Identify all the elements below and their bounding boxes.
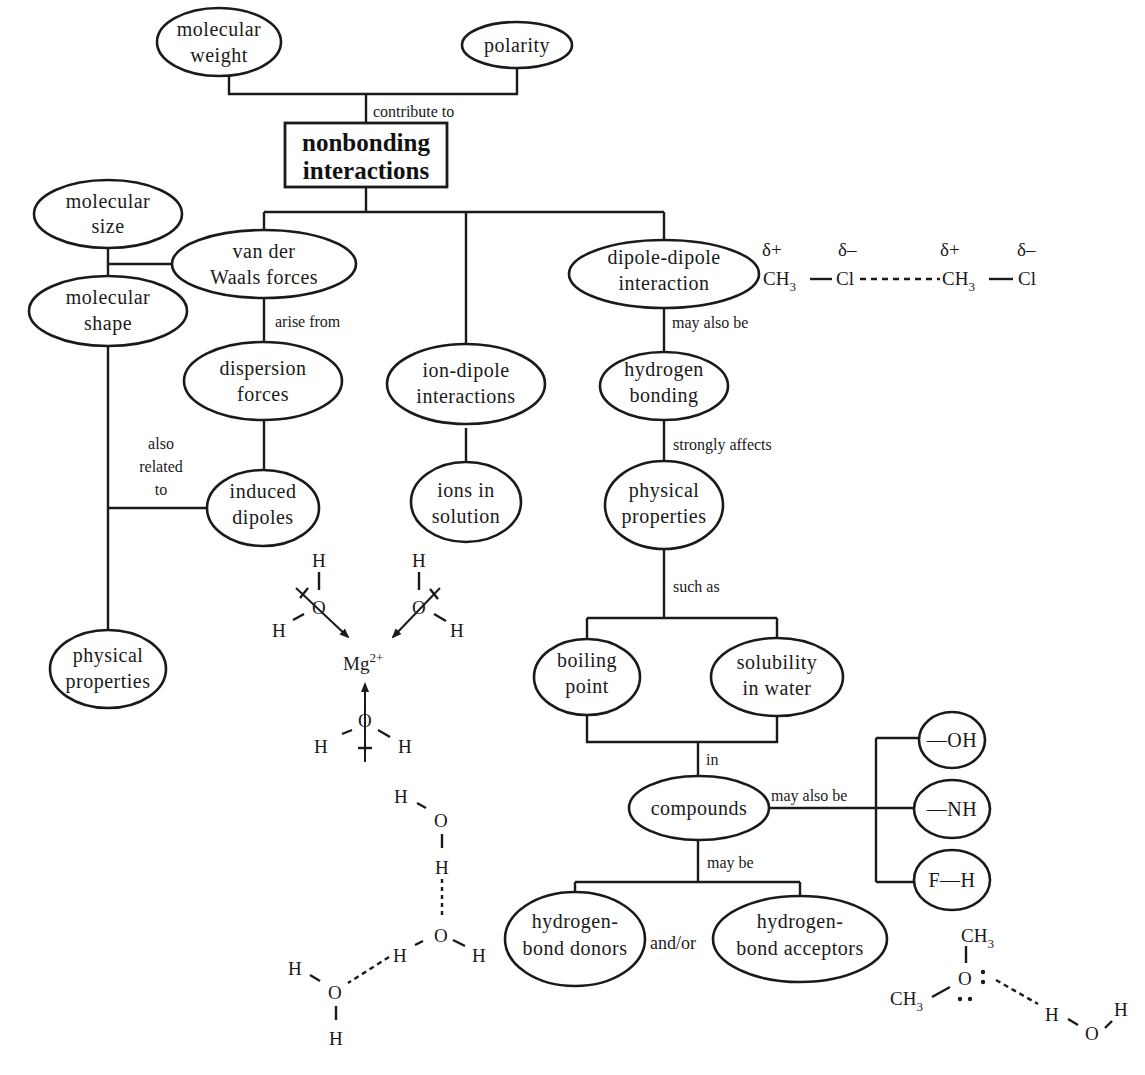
svg-text:O: O (434, 810, 448, 831)
svg-text:point: point (565, 675, 609, 698)
node-polarity: polarity (462, 22, 572, 68)
svg-text:δ+: δ+ (762, 239, 782, 260)
svg-text:Cl: Cl (836, 268, 854, 289)
label-related: related (139, 458, 183, 475)
svg-text:hydrogen: hydrogen (624, 358, 704, 381)
svg-text:molecular: molecular (66, 190, 150, 212)
svg-text:dispersion: dispersion (219, 357, 306, 380)
svg-text:interactions: interactions (416, 385, 515, 407)
svg-text:O: O (358, 710, 372, 731)
svg-text:physical: physical (73, 644, 144, 667)
svg-text:properties: properties (66, 670, 151, 693)
svg-text:O: O (958, 968, 972, 989)
label-may-also-be-1: may also be (672, 314, 748, 332)
svg-text:H: H (394, 786, 408, 807)
node-physical-properties-right: physical properties (605, 461, 723, 549)
svg-text:O: O (1085, 1023, 1099, 1044)
node-oh-group: —OH (919, 712, 985, 768)
ether-water-hydrogen-bond: CH3 O CH3 H O H (890, 925, 1128, 1044)
svg-text:boiling: boiling (557, 649, 617, 672)
node-dispersion-forces: dispersion forces (184, 342, 342, 420)
svg-text:interaction: interaction (618, 272, 709, 294)
svg-text:δ–: δ– (1017, 239, 1036, 260)
node-hydrogen-bonding: hydrogen bonding (600, 352, 728, 420)
node-ion-dipole-interactions: ion-dipole interactions (387, 344, 545, 424)
node-physical-properties-left: physical properties (50, 630, 166, 708)
node-molecular-weight: molecular weight (157, 8, 281, 76)
svg-text:H: H (288, 958, 302, 979)
svg-text:—NH: —NH (926, 798, 977, 820)
svg-text:H: H (450, 620, 464, 641)
svg-text:physical: physical (629, 479, 700, 502)
svg-text:size: size (91, 215, 124, 237)
svg-text:properties: properties (622, 505, 707, 528)
svg-text:forces: forces (237, 383, 289, 405)
label-in: in (706, 751, 718, 768)
svg-text:H: H (312, 550, 326, 571)
svg-text:O: O (328, 982, 342, 1003)
svg-text:molecular: molecular (66, 286, 150, 308)
node-compounds: compounds (629, 776, 769, 840)
svg-text:δ+: δ+ (940, 239, 960, 260)
node-molecular-shape: molecular shape (29, 276, 187, 346)
svg-text:hydrogen-: hydrogen- (757, 910, 844, 933)
label-and-or: and/or (650, 933, 696, 953)
node-solubility-in-water: solubility in water (711, 638, 843, 716)
label-contribute-to: contribute to (373, 103, 454, 120)
label-to: to (155, 481, 167, 498)
dipole-dipole-example: δ+ δ– δ+ δ– CH3 Cl CH3 Cl (762, 239, 1036, 294)
svg-text:H: H (398, 736, 412, 757)
svg-text:polarity: polarity (484, 34, 550, 57)
svg-text:H: H (393, 945, 407, 966)
svg-text:in water: in water (743, 677, 812, 699)
svg-text:H: H (472, 945, 486, 966)
node-fh-group: F—H (914, 850, 990, 910)
svg-text:ion-dipole: ion-dipole (422, 359, 509, 382)
svg-text:H: H (412, 550, 426, 571)
title-line2: interactions (303, 157, 430, 184)
svg-text:van der: van der (233, 240, 296, 262)
svg-text:shape: shape (84, 312, 132, 335)
node-dipole-dipole-interaction: dipole-dipole interaction (569, 240, 759, 308)
node-ions-in-solution: ions in solution (411, 462, 521, 542)
svg-text:weight: weight (190, 44, 247, 67)
svg-text:H: H (435, 857, 449, 878)
svg-text:δ–: δ– (838, 239, 857, 260)
svg-text:H: H (314, 736, 328, 757)
svg-text:dipoles: dipoles (232, 506, 293, 529)
svg-text:molecular: molecular (177, 18, 261, 40)
svg-text:H: H (329, 1028, 343, 1049)
svg-text:induced: induced (230, 480, 297, 502)
svg-text:H: H (272, 620, 286, 641)
svg-text:CH3: CH3 (942, 268, 975, 294)
svg-text:ions in: ions in (437, 479, 494, 501)
label-strongly-affects: strongly affects (673, 436, 772, 454)
svg-text:hydrogen-: hydrogen- (532, 910, 619, 933)
title-box-nonbonding-interactions: nonbonding interactions (285, 123, 447, 187)
svg-text:CH3: CH3 (890, 988, 923, 1014)
svg-text:H: H (1045, 1004, 1059, 1025)
svg-text:solubility: solubility (737, 651, 818, 674)
label-may-also-be-2: may also be (771, 787, 847, 805)
svg-text:F—H: F—H (928, 869, 975, 891)
svg-text:O: O (434, 925, 448, 946)
label-may-be: may be (707, 854, 754, 872)
node-hydrogen-bond-acceptors: hydrogen- bond acceptors (713, 896, 887, 982)
svg-text:H: H (1114, 999, 1128, 1020)
svg-text:Cl: Cl (1018, 268, 1036, 289)
node-nh-group: —NH (914, 780, 990, 838)
svg-text:bond acceptors: bond acceptors (736, 937, 864, 960)
svg-text:CH3: CH3 (763, 268, 796, 294)
svg-text:Mg2+: Mg2+ (343, 650, 383, 674)
mg-ion-complex: H O H H O H Mg2+ O H H (272, 550, 464, 762)
svg-text:solution: solution (432, 505, 500, 527)
node-hydrogen-bond-donors: hydrogen- bond donors (505, 892, 645, 986)
node-molecular-size: molecular size (34, 180, 182, 248)
svg-text:dipole-dipole: dipole-dipole (607, 246, 720, 269)
node-boiling-point: boiling point (534, 639, 640, 715)
svg-text:—OH: —OH (926, 729, 977, 751)
water-hydrogen-bond-chain: H O H O H H H O H (288, 786, 486, 1049)
title-line1: nonbonding (302, 129, 430, 156)
node-van-der-waals-forces: van der Waals forces (172, 230, 356, 298)
svg-text:bonding: bonding (629, 384, 698, 407)
